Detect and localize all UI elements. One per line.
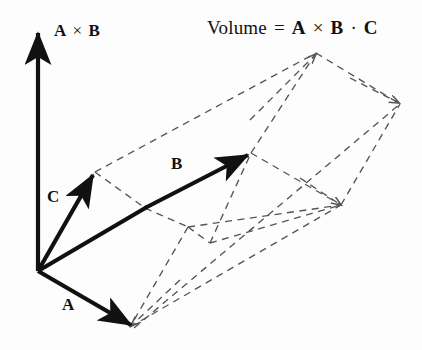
title-vector-a: A [292, 17, 306, 38]
edge-y-junction-right [210, 205, 341, 243]
title-word-volume: Volume [207, 17, 267, 38]
label-vector-c: C [47, 188, 59, 205]
parallelepiped-wireframe [95, 53, 400, 328]
edge-y-junction-up [210, 153, 251, 243]
axb-cross-icon: × [71, 21, 85, 40]
figure-title: Volume = A × B · C [207, 18, 378, 37]
edge-top-left [95, 53, 316, 172]
edge-inner-to-right [188, 205, 341, 227]
edge-inner-down [130, 227, 188, 327]
label-vector-a: A [62, 296, 74, 313]
title-vector-b: B [331, 17, 344, 38]
vector-a-arrow [38, 271, 131, 325]
edge-top-right [251, 53, 316, 153]
cross-operator-icon: × [311, 17, 326, 38]
edge-to-bottom-apex [131, 280, 180, 326]
solid-vectors [38, 33, 248, 325]
vector-triple-product-figure: Volume = A × B · C A × B C A B [0, 0, 422, 350]
edge-right-upper [251, 153, 341, 205]
wireframe-arrow-tips [131, 54, 399, 326]
label-cross-product-axb: A × B [54, 22, 100, 39]
label-vector-b: B [171, 155, 182, 172]
axb-vector-a: A [54, 21, 66, 40]
edge-to-inner-apex [300, 178, 341, 205]
axb-vector-b: B [88, 21, 99, 40]
edge-y-junction-left [188, 227, 210, 243]
edge-to-rear-apex [250, 54, 316, 120]
edge-bottom-long [130, 205, 341, 327]
edge-bbase-to-inner [145, 208, 188, 227]
title-equals-sign: = [272, 17, 287, 38]
dot-operator-icon: · [348, 17, 359, 38]
title-vector-c: C [364, 17, 378, 38]
edge-c-to-bbase [95, 172, 145, 208]
vector-b-arrow [145, 155, 248, 208]
edge-right-lower [341, 104, 400, 205]
